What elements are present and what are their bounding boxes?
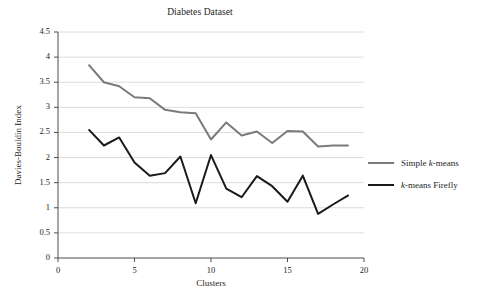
x-tick-label: 5 <box>123 265 147 275</box>
y-tick-label: 3 <box>22 101 50 111</box>
series-line <box>89 129 349 213</box>
y-tick-label: 0.5 <box>22 227 50 237</box>
chart-figure: Diabetes Dataset 00.511.522.533.544.5 05… <box>0 0 490 302</box>
x-tick-label: 15 <box>276 265 300 275</box>
x-tick-label: 10 <box>199 265 223 275</box>
gridlines <box>58 32 364 233</box>
y-tick-label: 0 <box>22 252 50 262</box>
legend-item-simple-kmeans: Simple k-means <box>368 152 459 174</box>
legend-swatch-simple-kmeans <box>368 162 394 164</box>
series-lines <box>89 65 349 214</box>
y-tick-label: 2 <box>22 152 50 162</box>
x-tick-label: 20 <box>352 265 376 275</box>
legend-label-kmeans-firefly: k-means Firefly <box>401 180 458 190</box>
series-line <box>89 65 349 147</box>
y-tick-label: 3.5 <box>22 76 50 86</box>
legend-item-kmeans-firefly: k-means Firefly <box>368 174 459 196</box>
y-tick-label: 1 <box>22 202 50 212</box>
x-axis-title: Clusters <box>58 278 364 288</box>
y-tick-label: 1.5 <box>22 177 50 187</box>
y-tick-label: 4.5 <box>22 26 50 36</box>
legend-swatch-kmeans-firefly <box>368 184 394 186</box>
y-tick-label: 4 <box>22 51 50 61</box>
y-axis-title: Davies-Bouldin Index <box>13 85 23 205</box>
y-tick-label: 2.5 <box>22 126 50 136</box>
legend-label-simple-kmeans: Simple k-means <box>401 158 459 168</box>
x-tick-label: 0 <box>46 265 70 275</box>
plot-area <box>0 0 490 302</box>
chart-legend: Simple k-means k-means Firefly <box>368 152 459 196</box>
